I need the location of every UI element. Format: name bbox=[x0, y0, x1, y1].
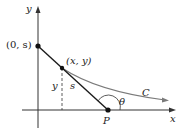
segment-label: s bbox=[70, 81, 75, 91]
point-p-label: P bbox=[103, 116, 110, 126]
y-axis-label: y bbox=[26, 4, 32, 14]
curve-label: C bbox=[142, 88, 150, 98]
curve-point-label: (x, y) bbox=[66, 56, 91, 66]
x-axis-label: x bbox=[170, 114, 176, 124]
curve-arrow-icon bbox=[162, 98, 169, 103]
point-y-intercept bbox=[35, 43, 40, 48]
y-axis-arrow-icon bbox=[36, 6, 41, 13]
y-intercept-label: (0, s) bbox=[6, 40, 32, 50]
x-axis-arrow-icon bbox=[169, 108, 176, 113]
point-p bbox=[105, 107, 110, 112]
angle-label: θ bbox=[119, 97, 125, 107]
height-label: y bbox=[52, 81, 58, 91]
point-curve bbox=[60, 66, 64, 70]
